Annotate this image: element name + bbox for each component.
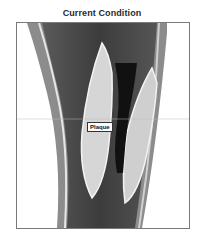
artery-illustration-frame: Plaque (16, 22, 190, 229)
figure-title: Current Condition (0, 8, 204, 18)
plaque-label: Plaque (87, 122, 113, 132)
